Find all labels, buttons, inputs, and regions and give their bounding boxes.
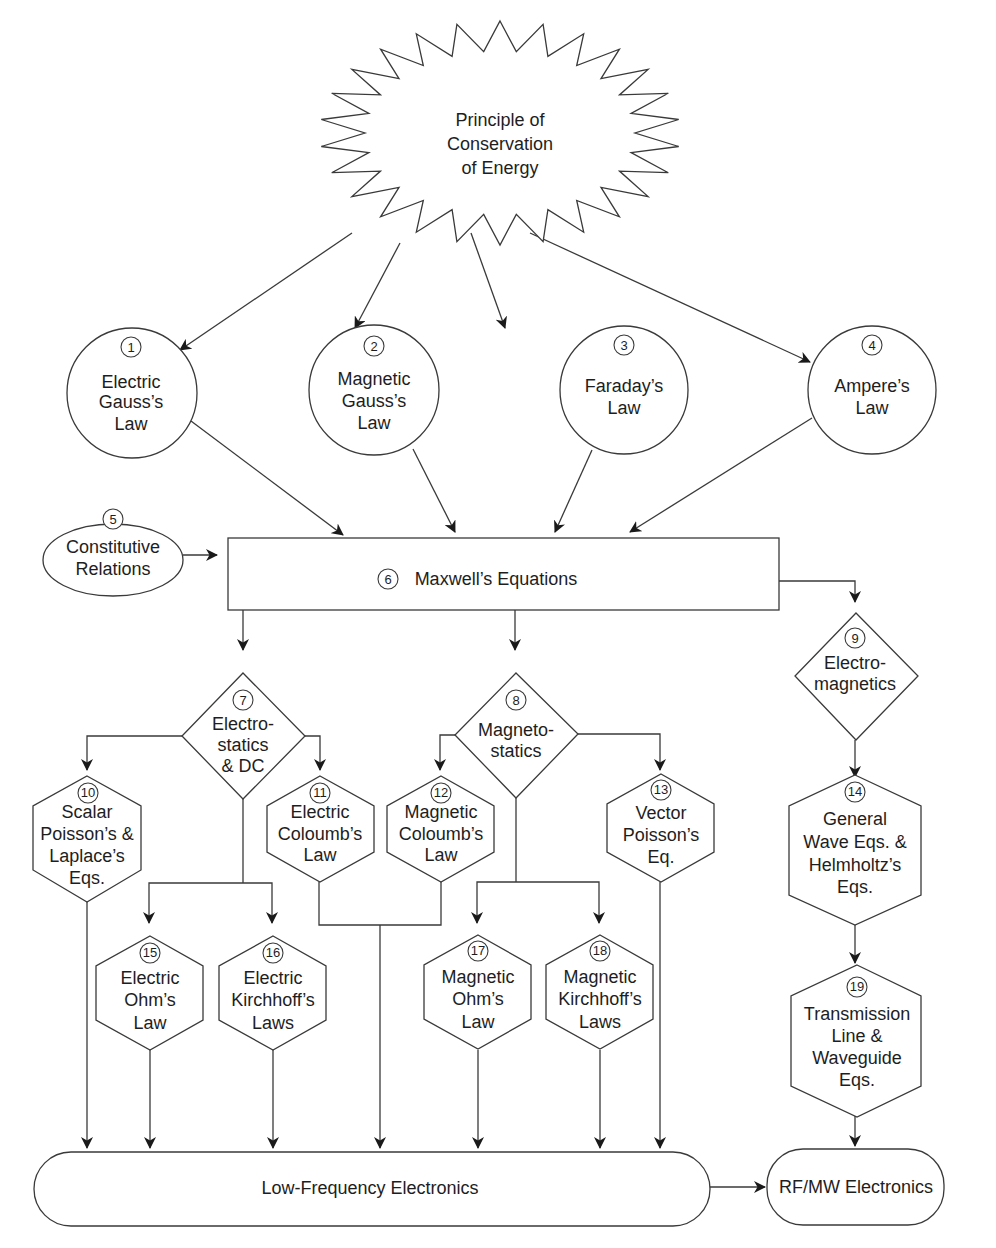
node-n13: 13 Vector Poisson’s Eq. xyxy=(607,774,714,882)
edge-energy-to-n1 xyxy=(180,233,352,350)
node-n7-line-3: & DC xyxy=(221,756,264,776)
node-n14: 14 General Wave Eqs. & Helmholtz’s Eqs. xyxy=(789,775,921,925)
edge-n8-to-n12 xyxy=(440,735,455,770)
number-label: 3 xyxy=(620,338,627,353)
number-label: 5 xyxy=(109,512,116,527)
node-n18: 18 Magnetic Kirchhoff’s Laws xyxy=(546,935,653,1049)
node-n1-line-3: Law xyxy=(114,414,148,434)
node-rfmw: RF/MW Electronics xyxy=(767,1149,944,1225)
number-label: 16 xyxy=(266,945,280,960)
node-n11: 11 Electric Coloumb’s Law xyxy=(267,776,374,882)
node-n15: 15 Electric Ohm’s Law xyxy=(96,936,203,1050)
node-n10-line-1: Scalar xyxy=(61,802,112,822)
node-n4: 4 Ampere’s Law xyxy=(808,326,936,454)
number-label: 10 xyxy=(81,785,95,800)
edge-n7-to-n11 xyxy=(305,736,320,770)
node-n13-line-3: Eq. xyxy=(647,847,674,867)
node-n5: 5 Constitutive Relations xyxy=(43,509,183,596)
node-n15-line-3: Law xyxy=(133,1013,167,1033)
node-rfmw-label: RF/MW Electronics xyxy=(779,1177,933,1197)
node-n8-line-1: Magneto- xyxy=(478,720,554,740)
node-n17: 17 Magnetic Ohm’s Law xyxy=(424,935,531,1049)
number-label: 13 xyxy=(654,782,668,797)
node-n7: 7 Electro- statics & DC xyxy=(182,673,305,799)
node-n14-line-4: Eqs. xyxy=(837,877,873,897)
node-n19: 19 Transmission Line & Waveguide Eqs. xyxy=(791,965,921,1117)
edge-n7-to-n16 xyxy=(243,883,272,923)
node-lowfreq: Low-Frequency Electronics xyxy=(34,1152,710,1226)
node-n19-line-4: Eqs. xyxy=(839,1070,875,1090)
node-n18-line-2: Kirchhoff’s xyxy=(558,989,642,1009)
node-n19-line-3: Waveguide xyxy=(812,1048,901,1068)
node-energy-line-2: Conservation xyxy=(447,134,553,154)
node-n3-line-2: Law xyxy=(607,398,641,418)
node-n17-line-2: Ohm’s xyxy=(452,989,504,1009)
node-n19-line-1: Transmission xyxy=(804,1004,910,1024)
node-n10-line-4: Eqs. xyxy=(69,868,105,888)
node-n1-line-2: Gauss’s xyxy=(99,392,164,412)
number-label: 14 xyxy=(848,784,862,799)
number-label: 4 xyxy=(868,338,875,353)
node-n1: 1 Electric Gauss’s Law xyxy=(67,328,197,458)
node-n3: 3 Faraday’s Law xyxy=(560,326,688,454)
node-n2: 2 Magnetic Gauss’s Law xyxy=(309,325,439,455)
number-label: 17 xyxy=(471,943,485,958)
edge-energy-to-n2 xyxy=(355,243,400,328)
number-label: 19 xyxy=(850,979,864,994)
node-n12-line-1: Magnetic xyxy=(404,802,477,822)
node-n7-line-1: Electro- xyxy=(212,714,274,734)
node-n17-line-3: Law xyxy=(461,1012,495,1032)
edge-n8-to-n17 xyxy=(477,882,516,923)
number-label: 18 xyxy=(593,943,607,958)
number-label: 15 xyxy=(143,945,157,960)
node-n14-line-2: Wave Eqs. & xyxy=(803,832,906,852)
edge-n8-to-n18 xyxy=(516,882,599,923)
node-n14-line-3: Helmholtz’s xyxy=(809,855,902,875)
node-n13-line-1: Vector xyxy=(635,803,686,823)
edge-n2-to-n6 xyxy=(413,449,455,532)
node-n16-line-3: Laws xyxy=(252,1013,294,1033)
node-n7-line-2: statics xyxy=(217,735,268,755)
node-n5-line-1: Constitutive xyxy=(66,537,160,557)
number-label: 2 xyxy=(370,339,377,354)
node-n10-line-2: Poisson’s & xyxy=(40,824,134,844)
number-label: 7 xyxy=(239,693,246,708)
node-n8-line-2: statics xyxy=(490,741,541,761)
edge-n8-to-n13 xyxy=(578,734,660,770)
node-lowfreq-label: Low-Frequency Electronics xyxy=(261,1178,478,1198)
edge-n6-to-n9 xyxy=(779,581,855,602)
node-n8: 8 Magneto- statics xyxy=(455,673,578,798)
number-label: 6 xyxy=(384,572,391,587)
node-n11-line-2: Coloumb’s xyxy=(278,824,363,844)
edge-energy-to-n3 xyxy=(471,233,505,328)
node-n6: 6 Maxwell’s Equations xyxy=(228,538,779,610)
node-energy: Principle of Conservation of Energy xyxy=(321,21,678,245)
edge-n7-to-n15 xyxy=(149,883,243,923)
node-n15-line-2: Ohm’s xyxy=(124,990,176,1010)
node-n2-line-3: Law xyxy=(357,413,391,433)
node-n5-line-2: Relations xyxy=(75,559,150,579)
node-n18-line-1: Magnetic xyxy=(563,967,636,987)
edge-n1-to-n6 xyxy=(191,421,343,535)
starburst-shape xyxy=(321,21,678,245)
node-n14-line-1: General xyxy=(823,809,887,829)
edge-n7-to-n10 xyxy=(87,736,182,770)
node-n9-line-1: Electro- xyxy=(824,653,886,673)
node-n6-line-1: Maxwell’s Equations xyxy=(415,569,578,589)
edge-n11-n12-merge xyxy=(319,882,441,925)
node-n12-line-2: Coloumb’s xyxy=(399,824,484,844)
node-n10-line-3: Laplace’s xyxy=(49,846,125,866)
node-n2-line-2: Gauss’s xyxy=(342,391,407,411)
node-n16-line-1: Electric xyxy=(243,968,302,988)
number-label: 8 xyxy=(512,693,519,708)
node-n9: 9 Electro- magnetics xyxy=(795,613,918,740)
node-energy-line-1: Principle of xyxy=(455,110,545,130)
node-n16: 16 Electric Kirchhoff’s Laws xyxy=(219,936,326,1050)
node-n11-line-1: Electric xyxy=(290,802,349,822)
node-n3-line-1: Faraday’s xyxy=(585,376,664,396)
node-n2-line-1: Magnetic xyxy=(337,369,410,389)
node-n12-line-3: Law xyxy=(424,845,458,865)
node-n15-line-1: Electric xyxy=(120,968,179,988)
node-n10: 10 Scalar Poisson’s & Laplace’s Eqs. xyxy=(33,776,141,902)
edge-n3-to-n6 xyxy=(555,450,592,532)
